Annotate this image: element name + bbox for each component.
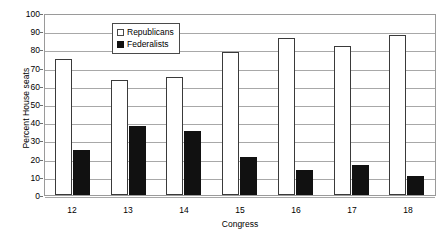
y-tick-mark — [40, 123, 43, 124]
x-axis-ticks: 12131415161718 — [44, 196, 436, 216]
x-tick-label: 13 — [100, 205, 156, 215]
bar-republicans-16 — [278, 38, 295, 195]
y-tick-mark — [40, 50, 43, 51]
y-tick-label: 90 — [18, 28, 40, 36]
x-tick-label: 14 — [156, 205, 212, 215]
bar-republicans-17 — [334, 46, 351, 195]
x-tick: 12 — [44, 196, 100, 216]
y-tick-mark — [40, 160, 43, 161]
x-axis-title: Congress — [44, 219, 436, 229]
legend-item-republicans: Republicans — [117, 26, 174, 38]
x-tick-label: 17 — [324, 205, 380, 215]
x-tick-label: 18 — [380, 205, 436, 215]
plot-area — [44, 14, 436, 196]
bar-republicans-12 — [55, 59, 72, 196]
y-tick-mark — [40, 32, 43, 33]
x-tick-label: 15 — [212, 205, 268, 215]
filled-square-icon — [117, 41, 124, 48]
bar-federalists-16 — [296, 170, 313, 195]
bar-group — [324, 15, 380, 195]
bar-group — [379, 15, 435, 195]
bar-group — [45, 15, 101, 195]
x-tick: 18 — [380, 196, 436, 216]
y-tick-label: 60 — [18, 83, 40, 91]
bar-federalists-12 — [73, 150, 90, 196]
bar-republicans-13 — [111, 80, 128, 195]
bar-group — [268, 15, 324, 195]
y-axis-ticks: 0102030405060708090100 — [18, 14, 40, 196]
bar-republicans-18 — [389, 35, 406, 195]
y-tick-mark — [40, 14, 43, 15]
y-tick-mark — [40, 105, 43, 106]
y-tick-mark — [40, 69, 43, 70]
bar-group — [212, 15, 268, 195]
y-tick-label: 100 — [18, 10, 40, 18]
bar-federalists-17 — [352, 165, 369, 195]
bar-groups — [45, 15, 435, 195]
y-tick-label: 50 — [18, 101, 40, 109]
x-tick: 15 — [212, 196, 268, 216]
bar-federalists-18 — [407, 176, 424, 195]
y-tick-mark — [40, 196, 43, 197]
x-tick-label: 12 — [44, 205, 100, 215]
y-tick-label: 10 — [18, 174, 40, 182]
bar-federalists-13 — [129, 126, 146, 195]
x-tick: 13 — [100, 196, 156, 216]
open-square-icon — [117, 29, 124, 36]
y-tick-label: 40 — [18, 119, 40, 127]
x-tick-label: 16 — [268, 205, 324, 215]
bar-federalists-14 — [184, 131, 201, 195]
bar-republicans-15 — [222, 52, 239, 195]
legend-label: Federalists — [127, 40, 169, 49]
y-tick-mark — [40, 178, 43, 179]
y-tick-label: 80 — [18, 46, 40, 54]
bar-federalists-15 — [240, 157, 257, 195]
bar-republicans-14 — [166, 77, 183, 195]
x-tick: 17 — [324, 196, 380, 216]
y-tick-label: 30 — [18, 137, 40, 145]
bar-chart: Percent House seats 01020304050607080901… — [0, 0, 448, 237]
legend-item-federalists: Federalists — [117, 38, 174, 50]
x-tick: 16 — [268, 196, 324, 216]
y-tick-mark — [40, 141, 43, 142]
legend: RepublicansFederalists — [112, 23, 180, 54]
x-tick: 14 — [156, 196, 212, 216]
y-tick-label: 0 — [18, 192, 40, 200]
y-tick-label: 20 — [18, 156, 40, 164]
y-tick-label: 70 — [18, 65, 40, 73]
y-tick-mark — [40, 87, 43, 88]
legend-label: Republicans — [127, 28, 174, 37]
